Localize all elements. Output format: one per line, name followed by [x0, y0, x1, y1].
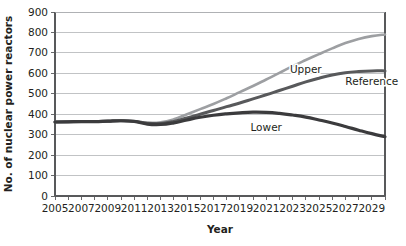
y-axis-tick-labels: 0100200300400500600700800900 — [28, 6, 48, 202]
y-tick-label-0: 0 — [41, 190, 48, 202]
x-tick-label-2023: 2023 — [279, 202, 306, 214]
x-tick-label-2027: 2027 — [332, 202, 359, 214]
x-tick-label-2019: 2019 — [226, 202, 253, 214]
x-axis-title: Year — [206, 223, 234, 235]
data-series — [55, 34, 385, 136]
y-tick-label-700: 700 — [28, 46, 48, 58]
gridlines — [55, 12, 385, 176]
x-tick-label-2021: 2021 — [253, 202, 280, 214]
x-tick-label-2005: 2005 — [42, 202, 69, 214]
x-axis-tick-labels: 2005200720092011201320152017201920212023… — [42, 202, 386, 214]
x-tick-label-2017: 2017 — [200, 202, 227, 214]
x-tick-label-2025: 2025 — [306, 202, 333, 214]
x-tick-label-2007: 2007 — [68, 202, 95, 214]
series-label-reference: Reference — [345, 75, 398, 87]
y-tick-label-500: 500 — [28, 87, 48, 99]
y-tick-label-100: 100 — [28, 169, 48, 181]
y-tick-label-200: 200 — [28, 149, 48, 161]
y-tick-label-900: 900 — [28, 6, 48, 18]
y-tick-label-300: 300 — [28, 128, 48, 140]
y-tick-label-400: 400 — [28, 108, 48, 120]
y-tick-label-600: 600 — [28, 67, 48, 79]
x-tick-label-2009: 2009 — [94, 202, 121, 214]
y-axis-tick-marks — [51, 12, 55, 196]
series-label-upper: Upper — [290, 63, 322, 75]
x-tick-label-2011: 2011 — [121, 202, 148, 214]
chart-container: 0100200300400500600700800900 20052007200… — [0, 0, 406, 246]
line-chart: 0100200300400500600700800900 20052007200… — [0, 0, 406, 246]
series-line-lower — [55, 112, 385, 137]
series-label-lower: Lower — [250, 121, 282, 133]
x-tick-label-2015: 2015 — [174, 202, 201, 214]
y-tick-label-800: 800 — [28, 26, 48, 38]
x-tick-label-2029: 2029 — [358, 202, 385, 214]
axis-lines — [55, 12, 385, 196]
y-axis-title: No. of nuclear power reactors — [2, 16, 14, 193]
x-tick-label-2013: 2013 — [147, 202, 174, 214]
x-axis-tick-marks — [55, 196, 385, 200]
